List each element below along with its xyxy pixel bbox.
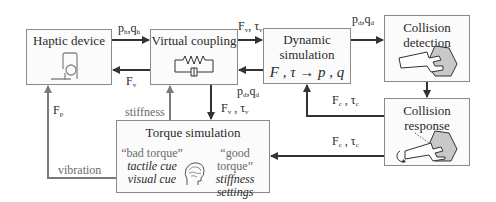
haptic-device-title: Haptic device	[27, 33, 111, 48]
torque-simulation-title: Torque simulation	[117, 125, 269, 140]
haptic-device-icon	[49, 51, 89, 83]
label-fc-tauc-lower: Fc , τc	[332, 135, 359, 152]
spring-damper-icon	[173, 54, 217, 78]
virtual-coupling-title: Virtual coupling	[151, 33, 237, 48]
label-fv-left: Fv	[126, 75, 136, 92]
virtual-coupling-box: Virtual coupling	[150, 29, 238, 85]
haptic-device-box: Haptic device	[26, 29, 112, 85]
collision-response-title-line1: Collision	[385, 103, 469, 118]
collision-response-box: Collision response	[384, 98, 470, 166]
good-torque-label: “good torque”	[201, 147, 269, 173]
label-pd-qd-back: pd,qd	[237, 85, 259, 102]
label-fv-tauv-top: Fv, τv	[238, 20, 263, 37]
collision-detection-title-line1: Collision	[385, 20, 469, 35]
label-fp: Fp	[53, 104, 63, 121]
wrench-rotate-icon	[391, 129, 465, 165]
good-torque-column: “good torque” stiffness settings	[201, 147, 269, 199]
label-fc-tauc-upper: Fc , τc	[332, 94, 359, 111]
label-stiffness: stiffness	[125, 106, 165, 119]
label-pd-qd-forward: pd,qd	[352, 13, 374, 30]
dynamic-simulation-title-line2: simulation	[264, 47, 350, 62]
visual-cue-label: visual cue	[121, 173, 183, 186]
label-vibration: vibration	[58, 164, 101, 177]
dynamic-simulation-title-line1: Dynamic	[264, 32, 350, 47]
settings-label: settings	[201, 186, 269, 199]
dynamic-simulation-box: Dynamic simulation F , τ → p , q	[263, 28, 351, 84]
label-ph-qh: ph,qh	[118, 22, 140, 39]
torque-simulation-box: Torque simulation “bad torque” tactile c…	[116, 120, 270, 193]
dynamic-formula: F , τ → p , q	[264, 64, 350, 81]
collision-detection-box: Collision detection	[384, 15, 470, 82]
bad-torque-column: “bad torque” tactile cue visual cue	[121, 147, 183, 186]
wrench-nut-icon	[397, 44, 463, 80]
label-fv-tauv-down: Fv , τv	[221, 102, 249, 119]
